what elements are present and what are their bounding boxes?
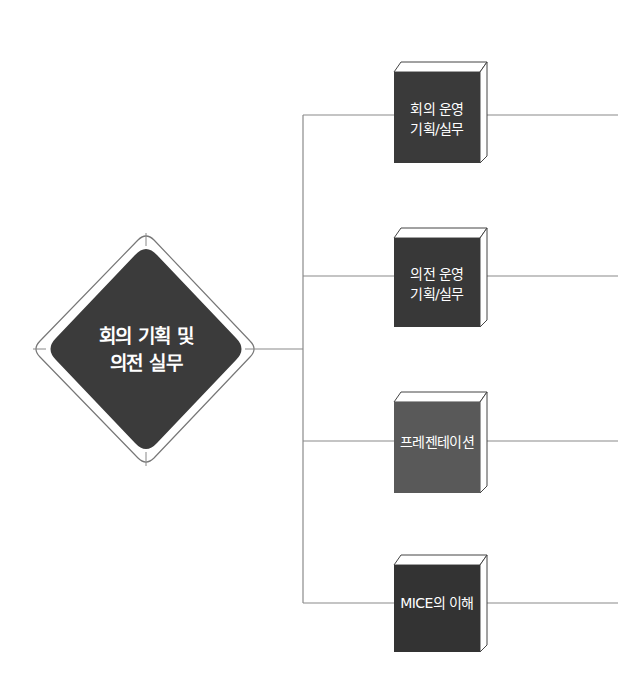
diagram-canvas: 회의 기획 및 의전 실무 회의 운영 기획/실무 의전 운영 기획/실무 프레… — [0, 0, 621, 688]
branch-node-1-face: 회의 운영 기획/실무 — [394, 73, 480, 164]
branch-2-line1: 의전 운영 — [410, 264, 463, 284]
branch-1-line1: 회의 운영 — [410, 99, 463, 119]
branch-node-4-face: MICE의 이해 — [394, 566, 480, 640]
root-node-label: 회의 기획 및 의전 실무 — [56, 318, 236, 382]
branch-2-line2: 기획/실무 — [410, 284, 464, 304]
root-label-line1: 회의 기획 및 — [99, 323, 194, 350]
branch-node-2-face: 의전 운영 기획/실무 — [394, 239, 480, 328]
root-label-line2: 의전 실무 — [110, 350, 182, 377]
branch-1-line2: 기획/실무 — [410, 119, 464, 139]
branch-node-3-face: 프레젠테이션 — [394, 403, 480, 481]
branch-3-line1: 프레젠테이션 — [400, 432, 474, 452]
branch-4-line1: MICE의 이해 — [400, 593, 473, 613]
